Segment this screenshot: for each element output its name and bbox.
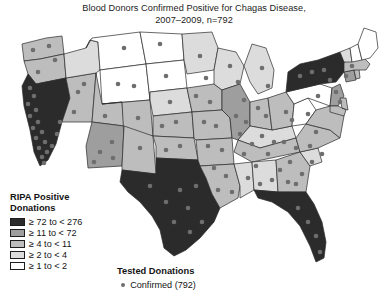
legend-swatch-1 — [10, 218, 25, 226]
legend-item: ≥ 11 to < 72 — [10, 228, 82, 239]
choropleth-legend-title-line-2: Donations — [10, 203, 82, 214]
choropleth-legend-rows: ≥ 72 to < 276 ≥ 11 to < 72 ≥ 4 to < 11 ≥… — [10, 216, 82, 271]
legend-swatch-4 — [10, 251, 25, 259]
legend-item: ≥ 2 to < 4 — [10, 250, 82, 261]
figure-title-line-1: Blood Donors Confirmed Positive for Chag… — [0, 3, 388, 15]
legend-swatch-3 — [10, 240, 25, 248]
point-legend: Tested Donations Confirmed (792) — [117, 266, 196, 290]
state-AZ — [86, 122, 124, 168]
legend-item: ≥ 72 to < 276 — [10, 216, 82, 227]
legend-item: ≥ 4 to < 11 — [10, 239, 82, 250]
state-OK — [153, 136, 198, 160]
point-legend-title: Tested Donations — [117, 266, 196, 277]
state-KS — [153, 112, 194, 138]
state-ID — [64, 40, 100, 78]
state-IA — [187, 84, 222, 112]
state-ME — [358, 28, 378, 60]
figure-title: Blood Donors Confirmed Positive for Chag… — [0, 3, 388, 26]
legend-label-1: ≥ 72 to < 276 — [29, 217, 82, 227]
legend-swatch-2 — [10, 229, 25, 237]
chagas-map-figure: Blood Donors Confirmed Positive for Chag… — [0, 0, 388, 304]
choropleth-legend: RIPA Positive Donations ≥ 72 to < 276 ≥ … — [10, 192, 82, 272]
state-MN — [182, 32, 218, 74]
state-MO — [192, 110, 232, 140]
legend-item: ≥ 1 to < 2 — [10, 261, 82, 272]
legend-label-5: ≥ 1 to < 2 — [29, 261, 67, 271]
confirmed-dot-icon — [121, 283, 125, 287]
point-legend-item: Confirmed (792) — [117, 280, 196, 290]
state-WY — [100, 64, 150, 104]
choropleth-legend-title-line-1: RIPA Positive — [10, 192, 82, 203]
state-ND — [140, 32, 184, 64]
legend-label-3: ≥ 4 to < 11 — [29, 239, 72, 249]
legend-label-4: ≥ 2 to < 4 — [29, 250, 67, 260]
figure-title-line-2: 2007–2009, n=792 — [0, 15, 388, 27]
legend-swatch-5 — [10, 262, 25, 270]
point-legend-label: Confirmed (792) — [130, 280, 196, 290]
state-FL — [254, 190, 326, 262]
state-AR — [196, 138, 234, 166]
legend-label-2: ≥ 11 to < 72 — [29, 228, 77, 238]
